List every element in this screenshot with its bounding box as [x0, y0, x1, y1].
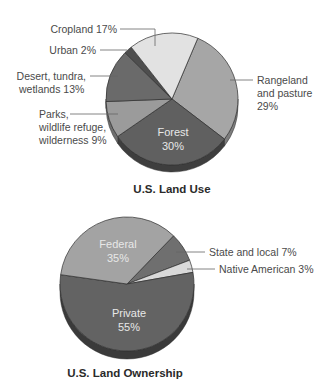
label-rangeland-line3: 29% — [257, 100, 278, 112]
label-urban: Urban 2% — [49, 44, 96, 56]
label-state-local: State and local 7% — [209, 246, 297, 258]
label-parks-line2: wildlife refuge, — [38, 121, 106, 133]
label-federal-name: Federal — [99, 238, 136, 250]
label-forest-value: 30% — [162, 140, 184, 152]
label-parks-line1: Parks, — [39, 108, 69, 120]
label-forest-name: Forest — [157, 126, 188, 138]
land-ownership-title: U.S. Land Ownership — [67, 367, 183, 379]
label-rangeland-line1: Rangeland — [257, 74, 308, 86]
label-parks-line3: wilderness 9% — [38, 134, 107, 146]
label-desert-line2: wetlands 13% — [18, 83, 84, 95]
label-desert-line1: Desert, tundra, — [17, 70, 86, 82]
land-charts: Cropland 17% Urban 2% Desert, tundra, we… — [0, 0, 324, 386]
label-private-name: Private — [112, 307, 146, 319]
land-use-title: U.S. Land Use — [133, 183, 210, 195]
label-federal-value: 35% — [107, 252, 129, 264]
label-private-value: 55% — [118, 321, 140, 333]
label-native-american: Native American 3% — [219, 263, 314, 275]
label-cropland: Cropland 17% — [50, 23, 117, 35]
label-rangeland-line2: and pasture — [257, 87, 313, 99]
